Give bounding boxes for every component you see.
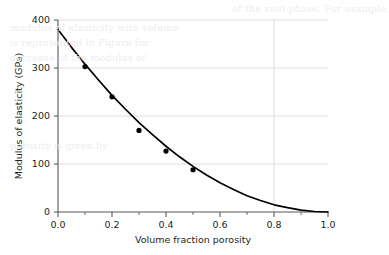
y-tick-label: 200 bbox=[32, 110, 50, 121]
y-axis-ticks bbox=[54, 20, 58, 212]
y-axis-tick-labels: 0100200300400 bbox=[32, 14, 50, 217]
data-point bbox=[163, 148, 168, 153]
data-point bbox=[136, 128, 141, 133]
data-point bbox=[82, 64, 87, 69]
data-point bbox=[190, 167, 195, 172]
y-tick-label: 300 bbox=[32, 62, 50, 73]
y-tick-label: 400 bbox=[32, 14, 50, 25]
x-tick-label: 0.4 bbox=[158, 219, 173, 230]
data-series-line bbox=[58, 30, 328, 212]
y-axis-title: Modulus of elasticity (GPa) bbox=[13, 53, 24, 180]
x-axis-title: Volume fraction porosity bbox=[135, 234, 252, 245]
x-tick-label: 0.6 bbox=[212, 219, 227, 230]
x-tick-label: 0.2 bbox=[104, 219, 119, 230]
x-axis-tick-labels: 0.00.20.40.60.81.0 bbox=[50, 219, 335, 230]
gridlines bbox=[58, 20, 328, 212]
data-point bbox=[109, 94, 114, 99]
x-tick-label: 0.0 bbox=[50, 219, 65, 230]
x-tick-label: 0.8 bbox=[266, 219, 281, 230]
y-tick-label: 0 bbox=[44, 206, 50, 217]
y-tick-label: 100 bbox=[32, 158, 50, 169]
x-axis-ticks bbox=[58, 212, 328, 217]
x-tick-label: 1.0 bbox=[320, 219, 335, 230]
